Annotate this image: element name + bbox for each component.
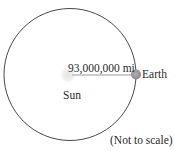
earth-label: Earth — [142, 69, 167, 81]
sun-label: Sun — [63, 90, 81, 102]
distance-label: 93,000,000 mi — [68, 63, 135, 75]
scale-note: (Not to scale) — [110, 135, 173, 147]
